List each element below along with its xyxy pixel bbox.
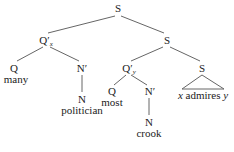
tree-edges: [0, 0, 234, 152]
node-s: S: [164, 35, 170, 46]
word-crook: crook: [136, 128, 161, 139]
word-many: many: [4, 74, 28, 85]
node-n-prime-1: N′: [77, 63, 87, 74]
node-q-prime-x: Q′x: [39, 35, 52, 50]
node-s-2: S: [199, 63, 205, 74]
word-politician: politician: [61, 105, 103, 116]
node-root-s: S: [115, 3, 121, 14]
triangle-text: x admires y: [178, 90, 228, 101]
node-n-prime-2: N′: [145, 86, 155, 97]
node-q-prime-y: Q′y: [122, 63, 135, 78]
word-most: most: [101, 97, 122, 108]
